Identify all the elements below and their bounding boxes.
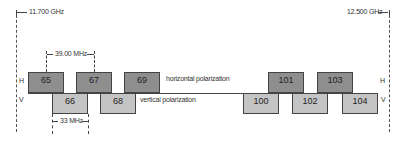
spacing-arrow-right: [87, 54, 94, 55]
band-start-line: [16, 10, 17, 132]
transponder-65: 65: [28, 72, 64, 93]
band-end-arrow: [378, 12, 388, 13]
v-letter-right: V: [381, 96, 386, 103]
spacing-right-tick: [94, 51, 95, 72]
transponder-104: 104: [342, 93, 378, 114]
transponder-66: 66: [52, 93, 88, 114]
transponder-101: 101: [268, 72, 304, 93]
bandwidth-label: 33 MHz: [60, 117, 83, 124]
bandwidth-right-tick: [88, 114, 89, 134]
transponder-68: 68: [100, 93, 136, 114]
transponder-100: 100: [243, 93, 279, 114]
band-start-arrow: [17, 12, 27, 13]
transponder-69: 69: [124, 72, 160, 93]
transponder-67: 67: [76, 72, 112, 93]
spacing-arrow-left: [47, 54, 53, 55]
bandwidth-left-tick: [52, 114, 53, 134]
spacing-label: 39.00 MHz: [55, 50, 87, 57]
band-end-line: [389, 10, 390, 132]
transponder-103: 103: [317, 72, 353, 93]
v-letter-left: V: [19, 96, 24, 103]
vertical-polarization-label: vertical polarization: [140, 96, 196, 103]
h-letter-left: H: [19, 77, 24, 84]
h-letter-right: H: [380, 77, 385, 84]
bandwidth-arrow-left: [53, 121, 58, 122]
transponder-102: 102: [292, 93, 328, 114]
band-end-tick: [389, 10, 390, 15]
band-start-label: 11.700 GHz: [29, 8, 64, 15]
bandwidth-arrow-right: [82, 121, 88, 122]
horizontal-polarization-label: horizontal polarization: [166, 75, 230, 82]
